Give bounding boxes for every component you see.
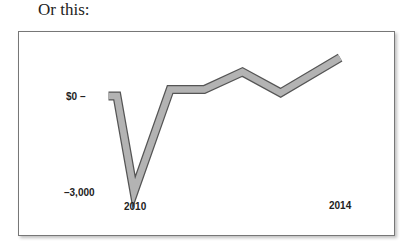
- x-axis-label-2010: 2010: [124, 201, 147, 212]
- y-axis-label-min: –3,000: [64, 187, 95, 198]
- line-series: [109, 58, 341, 192]
- x-axis-label-2014: 2014: [329, 200, 352, 211]
- line-chart: $0 – –3,000 2010 2014: [0, 0, 416, 248]
- y-axis-label-zero: $0 –: [66, 91, 86, 102]
